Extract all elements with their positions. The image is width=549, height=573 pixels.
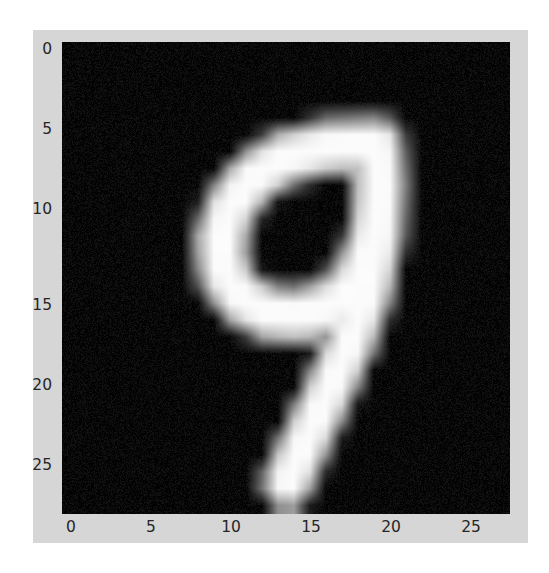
y-tick-label-15: 15	[32, 298, 52, 314]
y-tick-label-25: 25	[32, 458, 52, 474]
x-tick-label-20: 20	[381, 520, 401, 536]
x-tick-label-15: 15	[301, 520, 321, 536]
y-tick-label-10: 10	[32, 202, 52, 218]
y-tick-label-20: 20	[32, 378, 52, 394]
x-tick-label-25: 25	[461, 520, 481, 536]
y-tick-label-5: 5	[42, 122, 52, 138]
figure-canvas: 0 5 10 15 20 25 0 5 10 15 20 25	[0, 0, 549, 573]
x-tick-label-0: 0	[66, 520, 76, 536]
x-tick-label-10: 10	[221, 520, 241, 536]
digit-image-heatmap	[62, 42, 510, 514]
image-axes-area	[62, 42, 510, 514]
y-tick-label-0: 0	[42, 42, 52, 58]
x-tick-label-5: 5	[146, 520, 156, 536]
